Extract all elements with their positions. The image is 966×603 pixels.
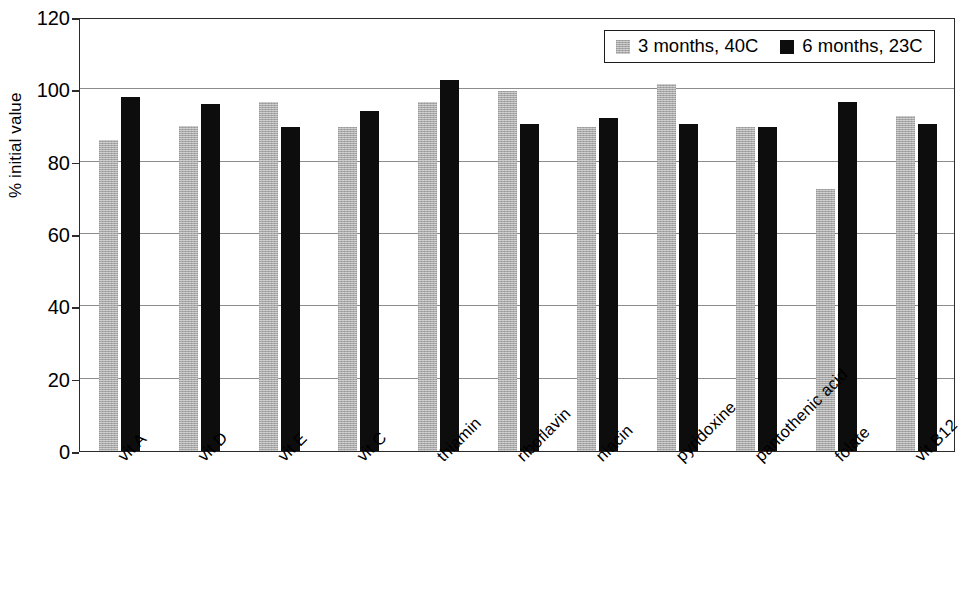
bar xyxy=(418,102,437,451)
bar-group xyxy=(498,19,539,451)
bar xyxy=(121,97,140,451)
y-tick-mark xyxy=(72,307,79,309)
y-tick-label: 60 xyxy=(6,225,70,245)
legend-swatch-icon xyxy=(780,40,794,54)
legend-entry: 3 months, 40C xyxy=(616,37,758,56)
chart-legend: 3 months, 40C6 months, 23C xyxy=(604,30,935,63)
y-tick-mark xyxy=(72,452,79,454)
bar xyxy=(520,124,539,451)
y-tick-label: 80 xyxy=(6,153,70,173)
bar-group xyxy=(657,19,698,451)
bar-group xyxy=(577,19,618,451)
bar xyxy=(201,104,220,451)
bar xyxy=(440,80,459,451)
bar xyxy=(736,127,755,451)
legend-entry: 6 months, 23C xyxy=(780,37,922,56)
bar xyxy=(338,127,357,451)
y-tick-mark xyxy=(72,90,79,92)
bar-chart-figure: % initial value 020406080100120 vit Avit… xyxy=(0,0,966,603)
y-tick-mark xyxy=(72,235,79,237)
bar xyxy=(896,116,915,451)
bar xyxy=(281,127,300,451)
bar xyxy=(179,126,198,452)
bar-group xyxy=(259,19,300,451)
y-tick-mark xyxy=(72,18,79,20)
bar xyxy=(758,127,777,451)
bar-group xyxy=(338,19,379,451)
bar xyxy=(599,118,618,451)
x-axis-tick-labels: vit Avit Dvit Evit Cthiaminriboflavinnia… xyxy=(79,452,955,602)
bar xyxy=(99,140,118,451)
y-tick-label: 120 xyxy=(6,8,70,28)
legend-swatch-icon xyxy=(616,40,630,54)
bar-group xyxy=(736,19,777,451)
bar xyxy=(360,111,379,451)
bar xyxy=(679,124,698,451)
y-axis-tick-labels: 020406080100120 xyxy=(0,18,70,452)
bar xyxy=(577,127,596,451)
y-tick-label: 0 xyxy=(6,442,70,462)
bar-group xyxy=(179,19,220,451)
y-tick-label: 40 xyxy=(6,297,70,317)
y-tick-mark xyxy=(72,163,79,165)
bar-group xyxy=(418,19,459,451)
bar xyxy=(498,91,517,451)
y-tick-label: 100 xyxy=(6,80,70,100)
bar xyxy=(918,124,937,451)
bar xyxy=(816,189,835,451)
y-tick-mark xyxy=(72,380,79,382)
bar xyxy=(838,102,857,451)
y-tick-label: 20 xyxy=(6,370,70,390)
bar xyxy=(259,102,278,451)
bar xyxy=(657,84,676,451)
bar-group xyxy=(896,19,937,451)
legend-label: 3 months, 40C xyxy=(638,37,758,56)
bar-group xyxy=(99,19,140,451)
legend-label: 6 months, 23C xyxy=(802,37,922,56)
